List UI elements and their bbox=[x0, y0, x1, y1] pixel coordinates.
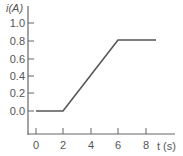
x-tick-label: 8 bbox=[143, 139, 149, 151]
y-tick-label: 1.0 bbox=[10, 17, 25, 29]
y-tick-label: 0.4 bbox=[10, 70, 25, 82]
x-tick-label: 2 bbox=[60, 139, 66, 151]
y-tick-label: 0.6 bbox=[10, 53, 25, 65]
y-tick-label: 0.8 bbox=[10, 35, 25, 47]
y-axis-label: i(A) bbox=[6, 2, 23, 14]
y-tick-label: 0.0 bbox=[10, 105, 25, 117]
data-line bbox=[36, 40, 156, 111]
x-ticks bbox=[36, 128, 146, 134]
y-tick-label: 0.2 bbox=[10, 87, 25, 99]
x-axis-label: t (s) bbox=[157, 140, 176, 152]
x-tick-label: 4 bbox=[88, 139, 94, 151]
y-ticks bbox=[28, 23, 34, 111]
chart: 1.0 0.8 0.6 0.4 0.2 0.0 0 2 4 6 8 i(A) t… bbox=[0, 0, 183, 156]
x-tick-label: 0 bbox=[33, 139, 39, 151]
x-tick-label: 6 bbox=[115, 139, 121, 151]
